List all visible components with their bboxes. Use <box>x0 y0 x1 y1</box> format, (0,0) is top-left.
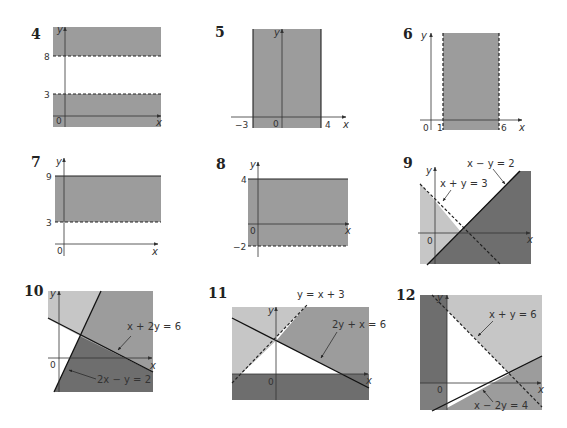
shaded-region-below-3 <box>53 94 161 127</box>
shaded-region-band <box>55 176 161 222</box>
tick-label: −3 <box>235 120 248 130</box>
y-axis-label: y <box>267 305 275 316</box>
x-axis-label: x <box>155 117 162 128</box>
equation-label: x + 2y = 6 <box>127 321 181 332</box>
shaded-region-band <box>443 33 499 130</box>
equation-label: x + y = 6 <box>489 309 537 320</box>
question-number: 11 <box>208 285 227 301</box>
tick-label: 3 <box>44 90 50 100</box>
tick-label: 6 <box>501 123 507 133</box>
question-number: 8 <box>216 156 226 172</box>
panel-6: 6 1 6 0 y x <box>403 26 525 133</box>
x-axis-label: x <box>342 119 349 130</box>
y-axis-label: y <box>425 165 433 176</box>
tick-label: 1 <box>437 123 443 133</box>
shaded-region-band <box>248 179 348 246</box>
shaded-region-above-8 <box>53 27 161 56</box>
question-number: 6 <box>403 26 413 42</box>
origin-label: 0 <box>273 119 279 129</box>
pointer-arrow <box>443 190 451 201</box>
tick-label: 3 <box>46 218 52 228</box>
question-number: 7 <box>31 154 41 170</box>
tick-label: −2 <box>233 242 246 252</box>
panel-9: 9 0 y x x − y = 2 x + y = 3 <box>403 155 533 265</box>
panel-7: 7 9 3 0 y x <box>31 154 161 257</box>
origin-label: 0 <box>50 360 56 370</box>
origin-label: 0 <box>437 385 443 395</box>
tick-label: 4 <box>325 120 331 130</box>
x-axis-label: x <box>365 375 372 386</box>
panel-10: 10 0 y x x + 2y = 6 2x − y = 2 <box>24 283 181 392</box>
panel-4: 4 8 3 0 y x <box>31 24 162 128</box>
shaded-region-band <box>253 29 321 128</box>
origin-label: 0 <box>56 116 62 126</box>
equation-label: x − y = 2 <box>467 158 515 169</box>
x-axis-label: x <box>537 384 544 395</box>
question-number: 5 <box>215 24 225 40</box>
tick-label: 4 <box>241 175 247 185</box>
x-axis-label: x <box>149 360 156 371</box>
origin-label: 0 <box>250 226 256 236</box>
y-axis-label: y <box>49 288 57 299</box>
y-axis-label: y <box>273 27 281 38</box>
tick-label: 9 <box>46 172 52 182</box>
y-axis-label: y <box>249 159 257 170</box>
origin-label: 0 <box>268 377 274 387</box>
origin-label: 0 <box>427 236 433 246</box>
origin-label: 0 <box>423 123 429 133</box>
question-number: 4 <box>31 26 41 42</box>
equation-label: 2x − y = 2 <box>97 374 151 385</box>
question-number: 9 <box>403 155 413 171</box>
x-axis-label: x <box>344 225 351 236</box>
question-number: 12 <box>396 287 415 303</box>
equation-label: y = x + 3 <box>297 289 345 300</box>
tick-label: 8 <box>44 52 50 62</box>
origin-label: 0 <box>57 246 63 256</box>
panel-5: 5 −3 4 0 y x <box>215 24 349 130</box>
y-axis-label: y <box>436 292 444 303</box>
panel-8: 8 4 −2 0 y x <box>216 156 351 257</box>
pointer-arrow <box>493 169 505 184</box>
x-axis-label: x <box>151 246 158 257</box>
equation-label: x + y = 3 <box>440 178 488 189</box>
inequality-graphs-figure: 4 8 3 0 y x 5 −3 4 0 y x 6 1 6 0 y <box>0 0 567 428</box>
y-axis-label: y <box>55 156 63 167</box>
panel-11: 11 0 y x y = x + 3 2y + x = 6 <box>208 285 386 400</box>
y-axis-label: y <box>420 30 428 41</box>
equation-label: 2y + x = 6 <box>332 319 386 330</box>
x-axis-label: x <box>518 122 525 133</box>
panel-12: 12 0 y x x + y = 6 x − 2y = 4 <box>396 287 544 411</box>
question-number: 10 <box>24 283 44 299</box>
equation-label: x − 2y = 4 <box>474 400 528 411</box>
x-axis-label: x <box>526 234 533 245</box>
y-axis-label: y <box>56 24 64 35</box>
